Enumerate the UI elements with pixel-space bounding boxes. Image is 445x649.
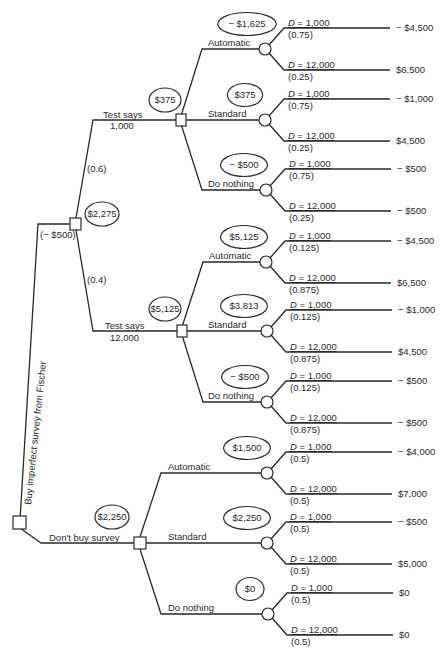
option-c-donothing: Do nothing xyxy=(168,602,214,613)
outcome-probability: (0.75) xyxy=(288,100,313,111)
chance-details: − $1,625D = 1,000(0.75)− $4,500D = 12,00… xyxy=(218,13,435,648)
chance-node[interactable] xyxy=(261,537,273,549)
outcome-probability: (0.125) xyxy=(290,382,320,393)
chance-node[interactable] xyxy=(261,396,273,408)
chance-node[interactable] xyxy=(261,467,273,479)
outcome-probability: (0.875) xyxy=(290,424,320,435)
outcome-demand: D = 1,000 xyxy=(290,299,331,310)
no-survey-label: Don't buy survey xyxy=(49,532,120,543)
outcome-probability: (0.875) xyxy=(290,353,320,364)
outcome-probability: (0.5) xyxy=(291,594,311,605)
outcome-demand: D = 1,000 xyxy=(291,582,332,593)
outcome-probability: (0.25) xyxy=(289,212,314,223)
chance-ev: $0 xyxy=(245,583,256,594)
outcome-payoff: $0 xyxy=(399,629,410,640)
outcome-payoff: − $1,000 xyxy=(396,93,433,104)
decision-tree: Buy imperfect survey from Fischer (− $50… xyxy=(0,0,445,649)
chance-ev: − $500 xyxy=(230,371,259,382)
outcome-demand: D = 1,000 xyxy=(289,230,330,241)
buy-survey-label: Buy imperfect survey from Fischer xyxy=(22,361,48,505)
outcome-probability: (0.875) xyxy=(289,284,319,295)
root-decision-node[interactable] xyxy=(13,516,26,529)
outcome-payoff: − $4,500 xyxy=(397,235,434,246)
outcome-probability: (0.125) xyxy=(289,242,319,253)
outcome-demand: D = 12,000 xyxy=(289,200,336,211)
test-1000-value: 1,000 xyxy=(110,120,134,131)
test-12000-value: 12,000 xyxy=(110,332,139,343)
outcome-demand: D = 12,000 xyxy=(288,59,335,70)
outcome-probability: (0.5) xyxy=(291,636,311,647)
outcome-payoff: − $4,000 xyxy=(398,446,435,457)
outcome-demand: D = 12,000 xyxy=(290,341,337,352)
outcome-payoff: − $500 xyxy=(398,417,427,428)
option-c-automatic: Automatic xyxy=(168,461,210,472)
option-c-standard: Standard xyxy=(168,531,207,542)
outcome-payoff: − $500 xyxy=(398,516,427,527)
outcome-payoff: − $500 xyxy=(397,205,426,216)
outcome-payoff: $5,000 xyxy=(398,558,427,569)
option-b-standard: Standard xyxy=(208,319,247,330)
decision-node-no-survey[interactable] xyxy=(134,537,146,549)
outcome-probability: (0.5) xyxy=(290,523,310,534)
outcome-payoff: $4,500 xyxy=(396,135,425,146)
ev-test-1000: $375 xyxy=(154,94,175,105)
decision-node-test-1000[interactable] xyxy=(176,114,186,126)
chance-node[interactable] xyxy=(262,608,274,620)
chance-ev: $5,125 xyxy=(229,231,258,242)
chance-node[interactable] xyxy=(259,43,271,55)
edge-c-automatic xyxy=(140,473,261,537)
chance-node[interactable] xyxy=(261,325,273,337)
option-b-automatic: Automatic xyxy=(209,250,251,261)
option-a-donothing: Do nothing xyxy=(208,178,254,189)
outcome-probability: (0.5) xyxy=(290,495,310,506)
chance-node[interactable] xyxy=(260,256,272,268)
chance-ev: $1,500 xyxy=(232,442,261,453)
option-a-standard: Standard xyxy=(208,108,247,119)
outcome-payoff: $4,500 xyxy=(398,346,427,357)
outcome-demand: D = 1,000 xyxy=(288,17,329,28)
decision-node-test-12000[interactable] xyxy=(177,325,187,337)
outcome-payoff: − $500 xyxy=(398,375,427,386)
outcome-demand: D = 12,000 xyxy=(290,553,337,564)
outcome-probability: (0.5) xyxy=(290,453,310,464)
chance-ev: $3,813 xyxy=(229,300,258,311)
outcome-payoff: − $1,000 xyxy=(398,304,435,315)
outcome-demand: D = 1,000 xyxy=(289,158,330,169)
outcome-probability: (0.5) xyxy=(290,565,310,576)
outcome-demand: D = 1,000 xyxy=(290,441,331,452)
ev-test-12000: $5,125 xyxy=(150,303,179,314)
outcome-edges xyxy=(269,28,393,635)
chance-nodes xyxy=(259,43,274,620)
outcome-probability: (0.75) xyxy=(289,170,314,181)
test-12000-prob: (0.4) xyxy=(87,274,107,285)
chance-node[interactable] xyxy=(259,114,271,126)
chance-ev: $2,250 xyxy=(232,512,261,523)
outcome-payoff: $0 xyxy=(399,587,410,598)
survey-cost-label: (− $500) xyxy=(40,229,76,240)
outcome-probability: (0.125) xyxy=(290,311,320,322)
test-12000-label: Test says xyxy=(105,320,145,331)
outcome-demand: D = 12,000 xyxy=(290,412,337,423)
test-1000-label: Test says xyxy=(103,109,143,120)
chance-ev: $375 xyxy=(234,89,255,100)
outcome-payoff: − $500 xyxy=(397,163,426,174)
outcome-payoff: $6,500 xyxy=(397,277,426,288)
outcome-demand: D = 12,000 xyxy=(288,130,335,141)
outcome-payoff: $7,000 xyxy=(398,488,427,499)
outcome-payoff: $6,500 xyxy=(396,64,425,75)
outcome-demand: D = 12,000 xyxy=(289,272,336,283)
outcome-demand: D = 12,000 xyxy=(290,483,337,494)
option-a-automatic: Automatic xyxy=(208,37,250,48)
ev-survey: $2,275 xyxy=(87,208,116,219)
outcome-demand: D = 1,000 xyxy=(288,88,329,99)
outcome-demand: D = 1,000 xyxy=(290,511,331,522)
chance-ev: − $1,625 xyxy=(228,18,265,29)
outcome-probability: (0.75) xyxy=(288,29,313,40)
outcome-demand: D = 12,000 xyxy=(291,624,338,635)
outcome-probability: (0.25) xyxy=(288,71,313,82)
outcome-payoff: − $4,500 xyxy=(396,22,433,33)
chance-ev: − $500 xyxy=(229,159,258,170)
test-1000-prob: (0.6) xyxy=(87,163,107,174)
chance-node[interactable] xyxy=(260,184,272,196)
option-b-donothing: Do nothing xyxy=(208,390,254,401)
